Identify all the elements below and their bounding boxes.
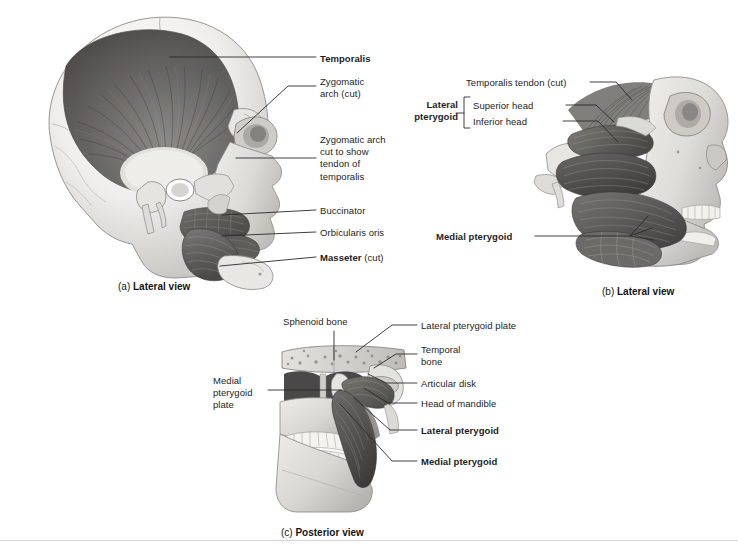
panel-b-illustration — [530, 58, 738, 286]
label-inferior-head: Inferior head — [473, 116, 527, 128]
panel-c-illustration — [268, 330, 418, 516]
label-medial-pterygoid-plate: Medial pterygoid plate — [213, 375, 253, 412]
caption-b-name: Lateral view — [617, 286, 674, 297]
caption-c-name: Posterior view — [295, 527, 363, 538]
caption-panel-b: (b) Lateral view — [602, 286, 674, 297]
caption-panel-a: (a) Lateral view — [118, 281, 190, 292]
bracket-lateral-pterygoid-heads — [464, 97, 470, 128]
panel-a-illustration — [8, 6, 308, 291]
caption-b-tag: (b) — [602, 286, 614, 297]
label-temporalis: Temporalis — [320, 53, 370, 65]
label-articular-disk: Articular disk — [421, 378, 476, 390]
label-buccinator: Buccinator — [320, 205, 365, 217]
label-temporal-bone: Temporal bone — [421, 344, 460, 368]
label-sphenoid-bone: Sphenoid bone — [283, 316, 348, 328]
label-superior-head: Superior head — [473, 100, 533, 112]
label-temporalis-tendon-cut: Temporalis tendon (cut) — [466, 77, 566, 89]
label-lateral-pterygoid-b: Lateral pterygoid — [386, 99, 458, 123]
pterygoid-posterior-drawing — [268, 330, 418, 516]
caption-panel-c: (c) Posterior view — [281, 527, 364, 538]
label-lateral-pterygoid-c: Lateral pterygoid — [421, 425, 499, 437]
label-lateral-pterygoid-plate: Lateral pterygoid plate — [421, 320, 516, 332]
label-medial-pterygoid-b: Medial pterygoid — [436, 231, 512, 243]
label-masseter: Masseter (cut) — [320, 252, 384, 264]
anatomy-figure: Temporalis Zygomatic arch (cut) Zygomati… — [0, 0, 738, 553]
label-masseter-text: Masseter — [320, 252, 362, 263]
caption-c-tag: (c) — [281, 527, 293, 538]
caption-a-tag: (a) — [118, 281, 130, 292]
label-masseter-suffix: (cut) — [362, 252, 384, 263]
label-orbicularis-oris: Orbicularis oris — [320, 227, 384, 239]
label-zygomatic-arch-tendon: Zygomatic arch cut to show tendon of tem… — [320, 134, 386, 183]
label-zygomatic-arch-cut: Zygomatic arch (cut) — [320, 76, 364, 100]
skull-lateral-temporalis-drawing — [8, 6, 308, 291]
footer-divider — [0, 540, 738, 541]
caption-a-name: Lateral view — [133, 281, 190, 292]
pterygoid-lateral-drawing — [530, 58, 738, 286]
label-medial-pterygoid-c: Medial pterygoid — [421, 456, 497, 468]
label-head-of-mandible: Head of mandible — [421, 398, 496, 410]
